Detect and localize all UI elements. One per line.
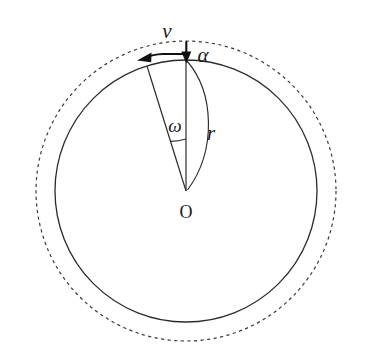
center-point-label: O xyxy=(180,202,193,222)
omega-angle-arc xyxy=(171,139,187,141)
velocity-label: v xyxy=(162,19,172,43)
alpha-arrow-head xyxy=(181,52,191,64)
angular-velocity-label: ω xyxy=(168,115,181,136)
angular-acceleration-label: α xyxy=(197,43,209,67)
velocity-arrow-shaft xyxy=(146,54,187,58)
radius-arc-r xyxy=(187,61,208,190)
circular-motion-diagram: v α ω r O xyxy=(0,0,365,360)
radius-label: r xyxy=(207,121,216,145)
figure-root: v α ω r O xyxy=(0,0,365,360)
velocity-arrow-head xyxy=(137,52,152,62)
